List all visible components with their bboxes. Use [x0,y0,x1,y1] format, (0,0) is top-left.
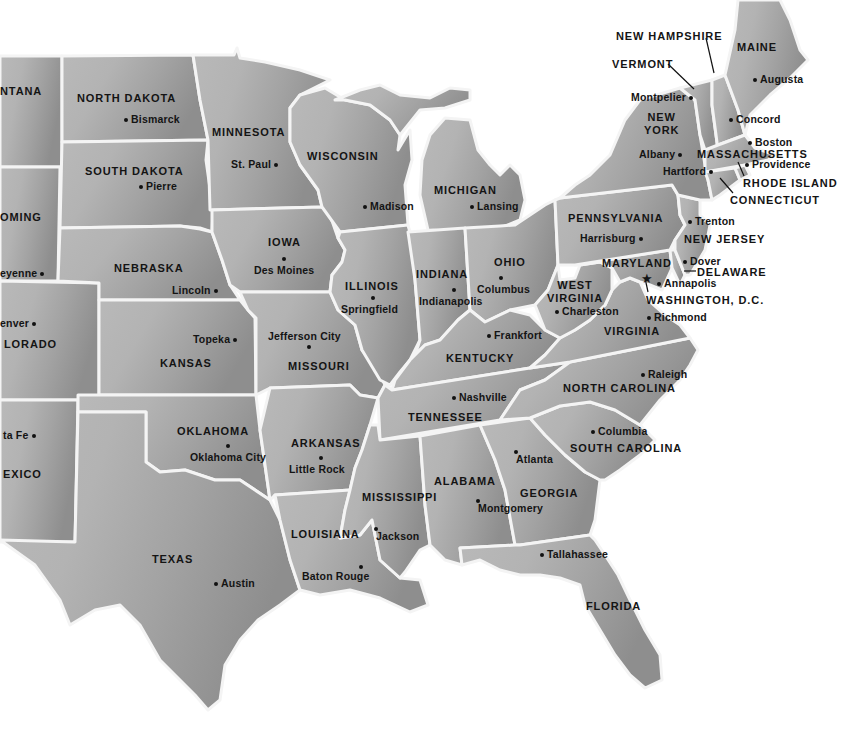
capital-dot-icon [499,276,503,280]
capital-label: Des Moines [254,264,314,276]
state-montana[interactable] [0,56,62,167]
capital-dot-icon [683,260,687,264]
capital-dot-icon [452,396,456,400]
capital-harrisburg: Harrisburg [580,233,643,244]
capital-dot-icon [307,345,311,349]
state-label-rhode-island: RHODE ISLAND [743,177,838,190]
capital-label: Lincoln [172,284,211,296]
capital-label: Boston [755,136,792,148]
state-wyoming[interactable] [0,167,60,281]
capital-montgomery: Montgomery [478,503,543,514]
state-label-north-dakota: NORTH DAKOTA [77,92,176,105]
state-label-new-hampshire: NEW HAMPSHIRE [616,30,722,43]
capital-frankfort: Frankfort [487,330,542,341]
capital-dot-icon [639,237,643,241]
capital-label: Albany [639,148,675,160]
national-capital-label: WASHINGTOH, D.C. [646,295,764,306]
capital-dot-icon [214,582,218,586]
capital-columbus: Columbus [477,284,530,295]
state-south-dakota[interactable] [60,140,213,232]
capital-trenton: Trenton [688,216,735,227]
state-label-oklahoma: OKLAHOMA [177,425,249,438]
state-label-mississippi: MISSISSIPPI [362,491,437,504]
capital-dot-icon [40,272,44,276]
capital-hartford: Hartford [663,166,713,177]
capital-jackson: Jackson [376,531,419,542]
state-label-new-jersey: NEW JERSEY [684,233,765,246]
capital-dot-icon [540,553,544,557]
state-label-kansas: KANSAS [160,357,212,370]
state-label-alabama: ALABAMA [434,475,496,488]
capital-label: Nashville [459,391,507,403]
state-label-montana: NTANA [0,85,42,98]
capital-label: Indianapolis [419,295,483,307]
capital-dot-icon [139,185,143,189]
capital-boston: Boston [748,137,792,148]
state-kansas[interactable] [99,300,256,395]
capital-montpelier: Montpelier [631,92,693,103]
capital-dot-icon [124,118,128,122]
capital-label: Columbia [598,425,647,437]
state-label-tennessee: TENNESSEE [408,411,483,424]
capital-lansing: Lansing [470,201,519,212]
capital-st-paul: St. Paul [231,159,278,170]
capital-dot-icon [745,163,749,167]
capital-bismarck: Bismarck [124,114,180,125]
capital-raleigh: Raleigh [641,369,687,380]
capital-indianapolis: Indianapolis [419,296,483,307]
capital-label: enver [0,317,29,329]
state-label-maine: MAINE [737,41,777,54]
state-label-texas: TEXAS [152,553,193,566]
capital-dover: Dover [683,256,721,267]
capital-des-moines: Des Moines [254,265,314,276]
capital-little-rock: Little Rock [289,464,345,475]
state-label-south-carolina: SOUTH CAROLINA [570,442,682,455]
state-label-illinois: ILLINOIS [345,280,399,293]
capital-label: Oklahoma City [190,451,266,463]
capital-label: eyenne [0,267,37,279]
state-label-colorado: LORADO [4,338,57,351]
state-label-louisiana: LOUISIANA [291,528,360,541]
capital-label: Atlanta [516,453,553,465]
capital-pierre: Pierre [139,181,177,192]
capital-dot-icon [32,434,36,438]
state-label-indiana: INDIANA [416,268,468,281]
capital-eyenne: eyenne [0,268,44,279]
capital-label: Madison [370,200,414,212]
us-map [0,0,842,730]
capital-dot-icon [226,444,230,448]
state-iowa[interactable] [212,207,345,292]
capital-oklahoma-city: Oklahoma City [190,452,266,463]
state-label-connecticut: CONNECTICUT [730,194,820,207]
capital-dot-icon [374,527,378,531]
capital-concord: Concord [729,114,781,125]
capital-dot-icon [32,322,36,326]
capital-dot-icon [647,316,651,320]
capital-label: Springfield [341,303,398,315]
capital-tallahassee: Tallahassee [540,549,608,560]
capital-label: Montpelier [631,91,686,103]
capital-austin: Austin [214,578,255,589]
state-label-wisconsin: WISCONSIN [307,150,379,163]
capital-label: Pierre [146,180,177,192]
star-icon: ★ [641,272,653,285]
capital-label: Austin [221,577,255,589]
capital-dot-icon [514,450,518,454]
capital-label: Providence [752,158,811,170]
capital-label: Lansing [477,200,519,212]
capital-label: Frankfort [494,329,542,341]
capital-topeka: Topeka [193,334,237,345]
capital-baton-rouge: Baton Rouge [302,571,370,582]
capital-richmond: Richmond [647,312,707,323]
state-label-maryland: MARYLAND [602,257,672,270]
state-label-nebraska: NEBRASKA [114,262,184,275]
capital-label: Topeka [193,333,230,345]
capital-santa-fe: ta Fe [3,430,36,441]
capital-dot-icon [363,205,367,209]
capital-dot-icon [688,220,692,224]
state-label-wyoming: OMING [0,211,42,224]
capital-providence: Providence [745,159,811,170]
capital-annapolis: Annapolis [657,278,717,289]
capital-label: Harrisburg [580,232,636,244]
capital-lincoln: Lincoln [172,285,218,296]
